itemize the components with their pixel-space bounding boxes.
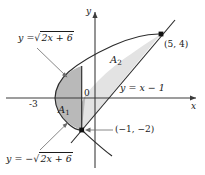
upper-parabola-radicand: 2x + 6: [40, 31, 73, 43]
region-a2-subscript: 2: [117, 58, 122, 67]
region-a1-label: A1: [58, 104, 70, 117]
point-5-4-marker: [159, 32, 164, 37]
leader-lower-parabola: [40, 124, 67, 150]
math-figure: y x 0 -3 y =√2x + 6 y = −√2x + 6 y = x −…: [0, 0, 205, 175]
line-label-lhs: y =: [120, 82, 136, 93]
upper-parabola-label: y =√2x + 6: [18, 32, 74, 43]
graph-canvas: [0, 0, 205, 175]
y-axis-arrow: [92, 12, 97, 18]
lower-parabola-lhs: y = −: [6, 153, 33, 164]
leader-upper-parabola: [37, 48, 66, 76]
line-label-rhs: x − 1: [139, 82, 164, 93]
upper-parabola-lhs: y =: [18, 32, 34, 43]
point-label-minus1-minus2: (−1, −2): [115, 124, 154, 134]
region-a1-subscript: 1: [65, 108, 70, 117]
axis-label-x: x: [191, 101, 196, 111]
origin-label: 0: [84, 88, 90, 98]
region-a2-label: A2: [110, 54, 122, 67]
lower-parabola-radicand: 2x + 6: [39, 152, 72, 164]
leader-point-arrowhead: [85, 128, 91, 133]
lower-parabola-label: y = −√2x + 6: [6, 153, 73, 164]
point-label-5-4: (5, 4): [164, 39, 188, 49]
line-label: y = x − 1: [120, 82, 165, 93]
x-tick-label-minus-3: -3: [29, 99, 38, 109]
axis-label-y: y: [86, 6, 91, 16]
x-axis-arrow: [190, 95, 196, 100]
point-minus1-minus2-marker: [79, 128, 84, 133]
